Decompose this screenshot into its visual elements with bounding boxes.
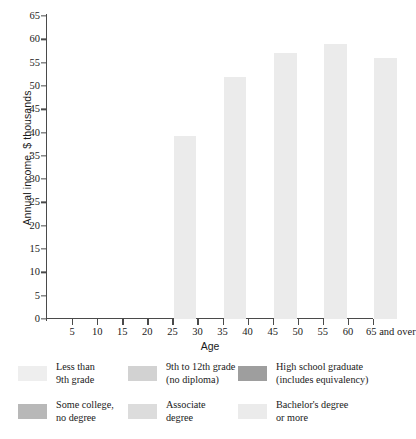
chart-legend: Less than9th grade9th to 12th grade(no d… [0,358,381,439]
y-tick-mark [41,248,46,249]
y-tick-label: 20 [0,221,40,232]
y-tick-label: 45 [0,104,40,115]
bar-segment [324,44,347,319]
x-tick-mark [223,319,224,325]
y-tick-mark [41,295,46,296]
bar-65-and-over [374,16,397,319]
legend-label: High school graduate(includes equivalenc… [276,361,369,386]
y-tick-label: 5 [0,290,40,301]
legend-label: Some college,no degree [56,399,114,424]
x-tick-label: 55 [318,327,329,338]
y-tick-mark [41,318,46,319]
bar-25-to-34 [174,16,197,319]
x-tick-mark [298,319,299,325]
y-tick-mark [41,62,46,63]
y-tick-mark [41,39,46,40]
y-tick-mark [41,155,46,156]
x-tick-mark [248,319,249,325]
x-tick-label: 5 [69,327,74,338]
stacked-bar-chart: Annual income, $ thousands 0510152025303… [0,0,381,355]
x-tick-mark [122,319,123,325]
y-tick-mark [41,272,46,273]
y-tick-label: 0 [0,314,40,325]
legend-label: 9th to 12th grade(no diploma) [166,361,235,386]
y-tick-mark [41,109,46,110]
bar-segment [174,136,197,319]
legend-swatch [238,366,267,381]
y-tick-mark [41,178,46,179]
y-tick-label: 25 [0,197,40,208]
y-tick-label: 60 [0,34,40,45]
y-tick-mark [41,132,46,133]
bar-segment [224,77,247,319]
x-axis-title: Age [47,340,373,352]
legend-swatch [128,366,157,381]
bar-45-to-54 [274,16,297,319]
x-tick-label: 60 [343,327,354,338]
legend-swatch [18,366,47,381]
y-tick-label: 30 [0,174,40,185]
x-tick-mark [147,319,148,325]
x-tick-label: 15 [117,327,128,338]
y-tick-mark [41,85,46,86]
y-tick-mark [41,225,46,226]
x-tick-label: 45 [267,327,278,338]
x-tick-mark [348,319,349,325]
bar-segment [274,53,297,319]
bar-segment [374,58,397,319]
y-tick-label: 65 [0,11,40,22]
x-tick-label: 30 [192,327,203,338]
x-tick-label: 25 [167,327,178,338]
legend-label: Associatedegree [166,399,206,424]
x-tick-label: 40 [242,327,253,338]
y-tick-label: 50 [0,81,40,92]
x-tick-mark [273,319,274,325]
legend-label: Less than9th grade [56,361,95,386]
x-tick-label: 65 and over [366,327,416,338]
bar-35-to-44 [224,16,247,319]
x-tick-mark [72,319,73,325]
y-tick-label: 15 [0,244,40,255]
x-tick-label: 50 [293,327,304,338]
x-tick-label: 35 [217,327,228,338]
x-tick-mark [172,319,173,325]
y-tick-label: 40 [0,127,40,138]
legend-swatch [238,404,267,419]
x-tick-mark [373,319,374,325]
legend-swatch [128,404,157,419]
y-tick-mark [41,202,46,203]
bar-55-to-64 [324,16,347,319]
legend-swatch [18,404,47,419]
x-tick-label: 10 [92,327,103,338]
y-tick-label: 10 [0,267,40,278]
plot-area [47,16,373,319]
legend-label: Bachelor's degreeor more [276,399,348,424]
x-tick-mark [323,319,324,325]
y-tick-label: 55 [0,57,40,68]
y-tick-label: 35 [0,151,40,162]
x-tick-mark [197,319,198,325]
x-tick-mark [97,319,98,325]
y-tick-mark [41,15,46,16]
x-tick-label: 20 [142,327,153,338]
